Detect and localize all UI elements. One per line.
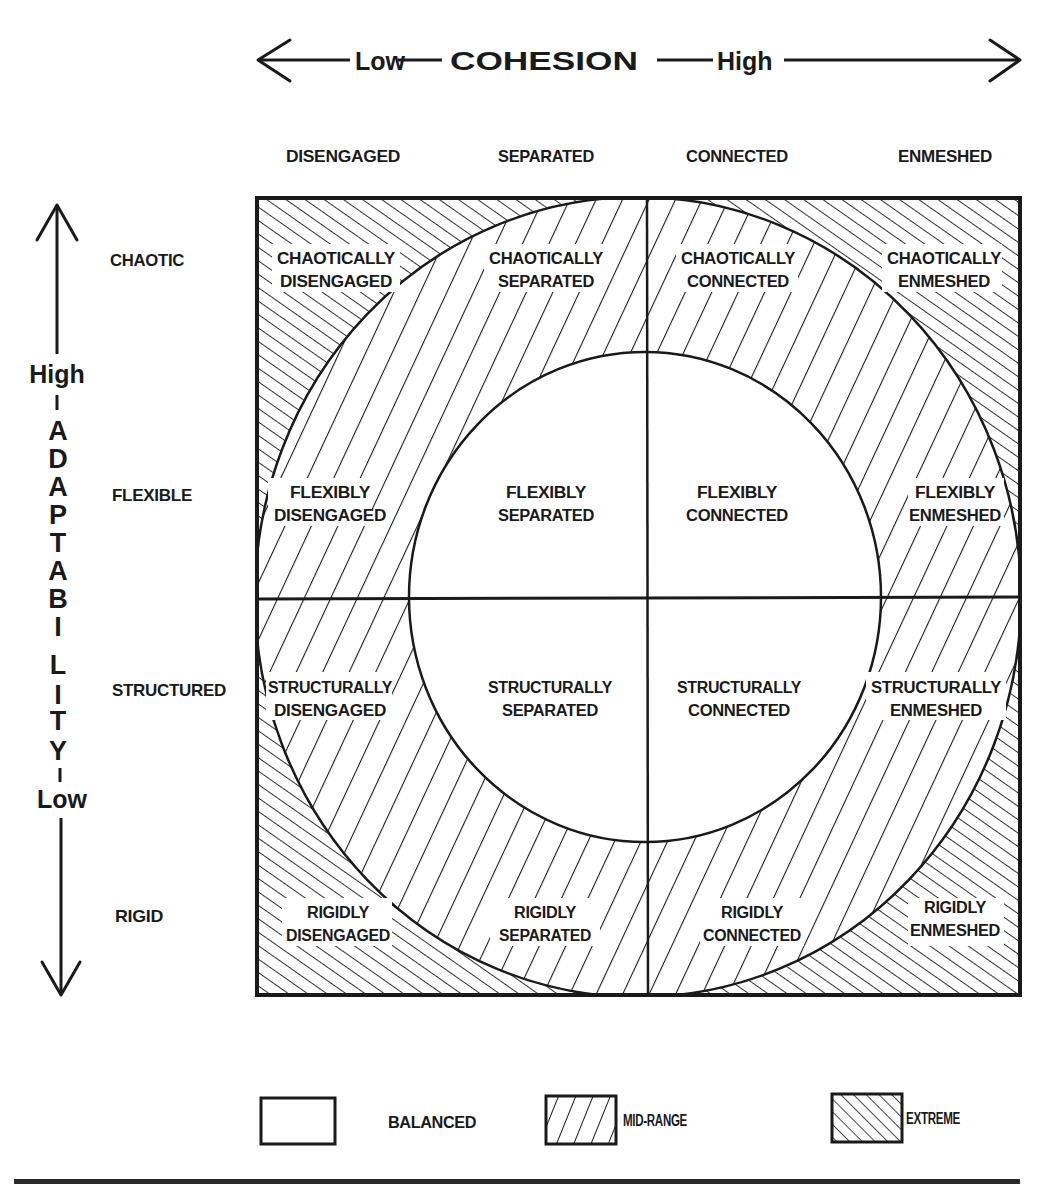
cell-line1: CHAOTICALLY	[681, 250, 796, 267]
cell-line2: DISENGAGED	[274, 702, 386, 719]
cohesion-level-headers: DISENGAGED SEPARATED CONNECTED ENMESHED	[286, 147, 992, 166]
adaptability-low-label: Low	[37, 785, 88, 813]
cell-line2: SEPARATED	[499, 927, 591, 944]
cell-line1: CHAOTICALLY	[277, 250, 396, 267]
adaptability-axis-title: A D A P T A B I L I T Y	[48, 416, 68, 766]
legend-item-extreme: EXTREME	[832, 1094, 961, 1142]
cell-line2: CONNECTED	[688, 702, 790, 719]
cell-line2: ENMESHED	[910, 922, 1000, 939]
cell-line2: CONNECTED	[686, 507, 788, 524]
legend-label-balanced: BALANCED	[388, 1114, 476, 1131]
bottom-rule	[14, 1179, 1020, 1184]
cell-line1: CHAOTICALLY	[489, 250, 604, 267]
legend-item-balanced: BALANCED	[261, 1098, 476, 1144]
extreme-swatch-hatch	[832, 1094, 902, 1142]
cell-line1: STRUCTURALLY	[268, 679, 393, 696]
horizontal-divider	[257, 597, 1020, 599]
cell-line2: DISENGAGED	[280, 273, 392, 290]
circumplex-grid	[255, 197, 1021, 997]
cohesion-low-label: Low	[355, 47, 406, 75]
legend-item-mid-range: MID-RANGE	[546, 1096, 688, 1144]
cell-line2: ENMESHED	[909, 507, 1001, 524]
cell-line1: STRUCTURALLY	[488, 679, 613, 696]
cell-line2: SEPARATED	[502, 702, 598, 719]
axis-letter: P	[49, 500, 67, 530]
adaptability-high-label: High	[29, 360, 85, 388]
axis-letter: A	[48, 416, 68, 446]
adaptability-level-flexible: FLEXIBLE	[112, 486, 192, 505]
cohesion-high-label: High	[717, 47, 773, 75]
cohesion-axis-title: COHESION	[450, 47, 638, 75]
adaptability-axis: High A D A P T A B I L I T Y Low	[29, 205, 87, 995]
cohesion-level-separated: SEPARATED	[498, 147, 594, 166]
cell-line1: RIGIDLY	[307, 904, 370, 921]
cell-line1: STRUCTURALLY	[677, 679, 802, 696]
cell-line2: ENMESHED	[898, 273, 990, 290]
cell-line2: DISENGAGED	[274, 507, 386, 524]
mid-range-swatch-hatch	[546, 1096, 616, 1144]
cell-line2: SEPARATED	[498, 507, 594, 524]
cell-line1: STRUCTURALLY	[871, 679, 1002, 696]
cohesion-level-enmeshed: ENMESHED	[898, 147, 992, 166]
axis-letter: B	[48, 584, 68, 614]
axis-letter: A	[48, 472, 68, 502]
legend: BALANCED MID-RANGE EXTREME	[261, 1094, 961, 1144]
cell-line2: SEPARATED	[498, 273, 594, 290]
cohesion-axis: Low COHESION High	[258, 40, 1020, 81]
cell-line2: CONNECTED	[687, 273, 789, 290]
axis-letter: L	[50, 650, 67, 680]
axis-letter: D	[48, 444, 68, 474]
axis-letter: A	[48, 556, 68, 586]
cell-line2: DISENGAGED	[286, 927, 390, 944]
legend-label-extreme: EXTREME	[906, 1110, 961, 1127]
axis-letter: T	[50, 706, 67, 736]
cell-line1: FLEXIBLY	[290, 484, 371, 501]
cell-line1: CHAOTICALLY	[887, 250, 1002, 267]
cell-line1: RIGIDLY	[924, 899, 987, 916]
circumplex-diagram: Low COHESION High DISENGAGED SEPARATED C…	[0, 0, 1062, 1200]
cell-line1: RIGIDLY	[514, 904, 577, 921]
cell-line1: FLEXIBLY	[697, 484, 778, 501]
adaptability-level-structured: STRUCTURED	[112, 681, 226, 700]
axis-letter: I	[54, 612, 62, 642]
adaptability-level-rigid: RIGID	[115, 907, 163, 926]
cell-line2: ENMESHED	[890, 702, 982, 719]
cell-line1: RIGIDLY	[721, 904, 784, 921]
axis-letter: T	[50, 528, 67, 558]
cell-line1: FLEXIBLY	[915, 484, 996, 501]
legend-label-mid-range: MID-RANGE	[623, 1112, 688, 1129]
cell-line2: CONNECTED	[703, 927, 801, 944]
cohesion-level-connected: CONNECTED	[686, 147, 788, 166]
axis-letter: Y	[49, 736, 67, 766]
cohesion-level-disengaged: DISENGAGED	[286, 147, 400, 166]
cell-line1: FLEXIBLY	[506, 484, 587, 501]
adaptability-level-chaotic: CHAOTIC	[110, 251, 184, 270]
adaptability-level-headers: CHAOTIC FLEXIBLE STRUCTURED RIGID	[110, 251, 226, 926]
balanced-swatch	[261, 1098, 335, 1144]
